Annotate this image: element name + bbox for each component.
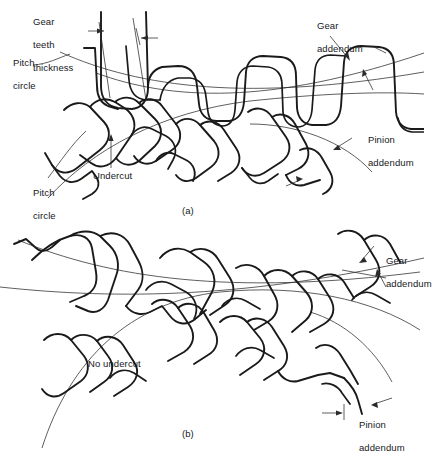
pinion-addendum-dim-arrowhead-a [296, 176, 303, 182]
pitch-circle-upper-line2: circle [13, 80, 36, 91]
undercut-label: Undercut [93, 170, 132, 182]
gear-tooth-3-b [100, 233, 143, 306]
thickness-dim-arrowhead-a [141, 35, 148, 40]
pinion-addendum-label-b: Pinion addendum [348, 407, 405, 455]
gear-addendum-arrowhead-b [359, 257, 367, 263]
pinion-addendum-a-line1: Pinion [368, 134, 395, 145]
gear-tooth-partial-left-b [14, 239, 60, 251]
thickness-guide-right-a [133, 18, 146, 100]
gear-tooth-3-inner-a [222, 66, 297, 127]
gear-addendum-b-line2: addendum [386, 278, 432, 289]
gear-tooth-1-a [101, 12, 148, 109]
pinion-tooth-7-a [242, 109, 289, 176]
pitch-circle-upper-line1: Pitch [13, 57, 35, 68]
gear-tooth-7-b [236, 265, 277, 330]
pitch-circle-lower-label: Pitch circle [22, 175, 56, 233]
pinion-tooth-3-inner-b [110, 370, 146, 381]
gear-tooth-4-b [126, 306, 206, 323]
caption-a: (a) [182, 205, 194, 216]
pinion-addendum-b-line1: Pinion [359, 419, 386, 430]
pinion-tooth-1-a [45, 103, 109, 172]
gear-teeth-thickness-line1: Gear [33, 16, 55, 27]
pinion-tooth-1-b [42, 334, 88, 396]
pitch-circle-lower-line2: circle [33, 210, 56, 221]
gear-addendum-circle-arc-a [96, 53, 424, 93]
pitch-circle-lower-line1: Pitch [33, 187, 55, 198]
gear-addendum-a-line2: addendum [317, 43, 363, 54]
gear-addendum-a-line1: Gear [317, 20, 339, 31]
pinion-addendum-arrowhead-left-b [336, 410, 343, 415]
caption-b: (b) [182, 428, 194, 439]
pinion-addendum-b-line2: addendum [359, 442, 405, 453]
pinion-addendum-a-line2: addendum [368, 157, 414, 168]
gear-tooth-5-inner-b [146, 282, 196, 319]
gear-teeth-thickness-line2: teeth [33, 39, 55, 50]
pinion-tooth-5-a [176, 119, 219, 181]
pinion-tooth-6-inner-b [236, 348, 274, 358]
pinion-tooth-8-b [278, 371, 344, 382]
pinion-tooth-11-b [322, 383, 350, 404]
pinion-tooth-9-b [316, 345, 358, 384]
gear-tooth-1-inner-a [126, 46, 160, 100]
pinion-tooth-11-a [300, 148, 332, 194]
pinion-tooth-2-a [80, 99, 134, 166]
gear-tooth-11-b [338, 231, 379, 296]
gear-addendum-b-line1: Gear [386, 255, 408, 266]
gear-tooth-8-b [264, 270, 312, 332]
pitch-circle-upper-label: Pitch circle [2, 45, 36, 103]
pinion-tooth-5-b [178, 304, 217, 364]
gear-teeth-thickness-line3: thickness [33, 62, 74, 73]
pinion-addendum-label-a: Pinion addendum [357, 122, 414, 180]
gear-addendum-label-b: Gear addendum [375, 243, 432, 301]
pinion-tooth-7-b [247, 319, 287, 380]
gear-addendum-label-a: Gear addendum [306, 8, 363, 66]
pinion-tooth-6-b [220, 316, 264, 375]
no-undercut-label: No undercut [88, 358, 141, 370]
gear-addendum-circle-arc-b [0, 258, 424, 294]
